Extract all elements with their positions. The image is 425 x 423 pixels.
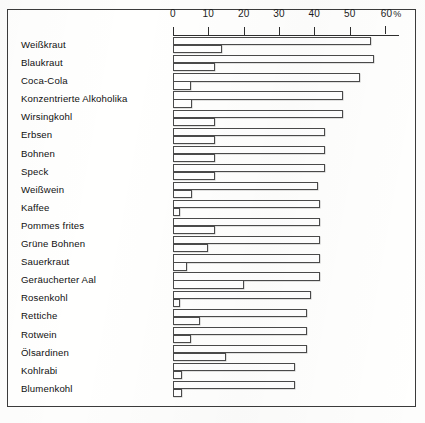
bar-upper — [173, 309, 307, 317]
bar-lower — [173, 226, 215, 234]
bar-upper — [173, 327, 307, 335]
bar-upper — [173, 363, 295, 371]
bar-lower — [173, 389, 182, 397]
x-axis-tick-label-30: 30 — [273, 8, 285, 19]
bar-upper — [173, 272, 320, 280]
bar-upper — [173, 182, 318, 190]
bar-upper — [173, 218, 320, 226]
category-label: Erbsen — [21, 129, 52, 140]
chart-row: Coca-Cola — [0, 72, 425, 90]
x-axis-tick-mark-20 — [244, 27, 245, 36]
bar-upper — [173, 146, 325, 154]
chart-row: Konzentrierte Alkoholika — [0, 90, 425, 108]
bar-lower — [173, 335, 191, 343]
bar-lower — [173, 371, 182, 379]
category-label: Speck — [21, 166, 48, 177]
category-label: Geräucherter Aal — [21, 274, 96, 285]
chart-row: Rotwein — [0, 326, 425, 344]
bar-upper — [173, 291, 311, 299]
bar-lower — [173, 317, 200, 325]
bar-lower — [173, 63, 215, 71]
category-label: Weißkraut — [21, 39, 66, 50]
chart-row: Weißwein — [0, 181, 425, 199]
category-label: Weißwein — [21, 184, 64, 195]
bar-lower — [173, 172, 215, 180]
category-label: Kaffee — [21, 202, 49, 213]
chart-row: Kohlrabi — [0, 362, 425, 380]
bar-lower — [173, 244, 208, 252]
x-axis-tick-mark-0 — [173, 27, 174, 36]
category-label: Konzentrierte Alkoholika — [21, 93, 128, 104]
chart-row: Ölsardinen — [0, 344, 425, 362]
chart-row: Wirsingkohl — [0, 108, 425, 126]
category-label: Rotwein — [21, 329, 57, 340]
category-label: Kohlrabi — [21, 365, 57, 376]
bar-upper — [173, 236, 320, 244]
bar-lower — [173, 99, 192, 107]
chart-rows: WeißkrautBlaukrautCoca-ColaKonzentrierte… — [0, 36, 425, 398]
chart-row: Rettiche — [0, 307, 425, 325]
x-axis-tick-label-60: 60% — [381, 8, 402, 19]
bar-lower — [173, 280, 244, 288]
bar-lower — [173, 136, 215, 144]
bar-upper — [173, 73, 360, 81]
category-label: Wirsingkohl — [21, 111, 72, 122]
chart-row: Speck — [0, 163, 425, 181]
bar-upper — [173, 164, 325, 172]
chart-row: Grüne Bohnen — [0, 235, 425, 253]
chart-figure: 0102030405060% WeißkrautBlaukrautCoca-Co… — [0, 0, 425, 423]
bar-lower — [173, 208, 180, 216]
chart-row: Weißkraut — [0, 36, 425, 54]
chart-row: Blumenkohl — [0, 380, 425, 398]
chart-row: Geräucherter Aal — [0, 271, 425, 289]
chart-row: Sauerkraut — [0, 253, 425, 271]
category-label: Coca-Cola — [21, 75, 68, 86]
bar-lower — [173, 299, 180, 307]
bar-lower — [173, 154, 215, 162]
x-axis-tick-label-10: 10 — [203, 8, 215, 19]
category-label: Ölsardinen — [21, 347, 69, 358]
bar-upper — [173, 110, 343, 118]
chart-row: Pommes frites — [0, 217, 425, 235]
category-label: Bohnen — [21, 148, 55, 159]
category-label: Rosenkohl — [21, 292, 68, 303]
category-label: Pommes frites — [21, 220, 84, 231]
category-label: Grüne Bohnen — [21, 238, 85, 249]
x-axis-tick-mark-40 — [314, 27, 315, 36]
x-axis-tick-label-0: 0 — [170, 8, 176, 19]
x-axis-tick-mark-10 — [208, 27, 209, 36]
category-label: Sauerkraut — [21, 256, 69, 267]
bar-lower — [173, 353, 226, 361]
category-label: Blumenkohl — [21, 383, 73, 394]
x-axis-tick-label-40: 40 — [309, 8, 321, 19]
chart-row: Bohnen — [0, 145, 425, 163]
x-axis-tick-mark-30 — [279, 27, 280, 36]
bar-upper — [173, 345, 307, 353]
x-axis-tick-mark-60 — [385, 26, 386, 34]
x-axis-tick-label-50: 50 — [344, 8, 356, 19]
bar-upper — [173, 128, 325, 136]
bar-lower — [173, 81, 191, 89]
bar-upper — [173, 55, 374, 63]
bar-upper — [173, 254, 320, 262]
bar-upper — [173, 37, 371, 45]
x-axis-unit-label: % — [393, 9, 401, 19]
bar-lower — [173, 190, 192, 198]
chart-row: Kaffee — [0, 199, 425, 217]
chart-row: Rosenkohl — [0, 289, 425, 307]
chart-row: Erbsen — [0, 126, 425, 144]
category-label: Rettiche — [21, 310, 57, 321]
bar-lower — [173, 262, 187, 270]
bar-lower — [173, 118, 215, 126]
bar-lower — [173, 45, 222, 53]
chart-row: Blaukraut — [0, 54, 425, 72]
bar-upper — [173, 91, 343, 99]
category-label: Blaukraut — [21, 57, 63, 68]
bar-upper — [173, 381, 295, 389]
x-axis-tick-mark-50 — [350, 27, 351, 36]
x-axis-tick-label-20: 20 — [238, 8, 250, 19]
bar-upper — [173, 200, 320, 208]
